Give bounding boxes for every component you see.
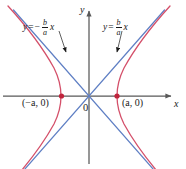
- vertex-point-right: [114, 93, 119, 98]
- asymptote-right-variable: x: [124, 23, 128, 33]
- asymptote-right-numerator: b: [116, 19, 122, 27]
- asymptote-left-sign: −: [35, 23, 40, 33]
- hyperbola-figure: y = − b a x y = b a x y x 0 (−a, 0) (a, …: [0, 0, 186, 169]
- vertex-left-label: (−a, 0): [22, 98, 49, 108]
- y-axis-label: y: [80, 5, 84, 15]
- asymptote-left-equals: =: [28, 23, 33, 33]
- asymptote-left-equation-label: y = − b a x: [23, 19, 54, 37]
- vertex-point-left: [59, 93, 64, 98]
- asymptote-left-fraction: b a: [42, 19, 48, 37]
- asymptote-right-lhs: y: [103, 23, 107, 33]
- asymptote-right-fraction: b a: [116, 19, 122, 37]
- asymptote-right-equation-label: y = b a x: [103, 19, 128, 37]
- vertex-right-label: (a, 0): [122, 98, 143, 108]
- x-axis-label: x: [174, 99, 178, 109]
- asymptote-left-numerator: b: [42, 19, 48, 27]
- asymptote-left-variable: x: [50, 23, 54, 33]
- asymptote-left-denominator: a: [42, 29, 48, 37]
- leader-line-left: [59, 31, 66, 52]
- asymptote-right-denominator: a: [116, 29, 122, 37]
- asymptote-left-lhs: y: [23, 23, 27, 33]
- origin-label: 0: [83, 103, 88, 114]
- asymptote-right-equals: =: [108, 23, 113, 33]
